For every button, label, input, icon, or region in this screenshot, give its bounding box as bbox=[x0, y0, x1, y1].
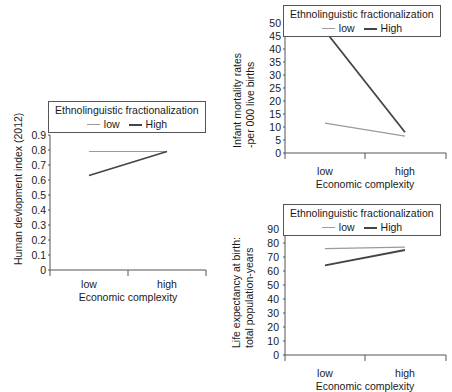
legend-label-high: High bbox=[381, 221, 403, 234]
y-tick-label: 0 bbox=[22, 264, 46, 276]
legend-title: Ethnolinguistic fractionalization bbox=[290, 8, 434, 21]
y-tick-label: 20 bbox=[255, 95, 281, 107]
legend-entry-high: High bbox=[364, 221, 403, 234]
legend-swatch-high-icon bbox=[129, 124, 142, 126]
y-tick-label: 0.7 bbox=[22, 159, 46, 171]
y-tick-label: 45 bbox=[255, 30, 281, 42]
y-tick-label: 0 bbox=[255, 147, 281, 159]
plot-area-life bbox=[283, 223, 448, 371]
legend-label-low: low bbox=[104, 118, 120, 131]
legend-entry-high: High bbox=[364, 22, 403, 35]
y-tick-label: 0.4 bbox=[22, 204, 46, 216]
y-tick-label: 10 bbox=[255, 121, 281, 133]
y-tick-label: 0.1 bbox=[22, 249, 46, 261]
y-tick-label: 70 bbox=[253, 251, 279, 263]
y-tick-label: 60 bbox=[253, 265, 279, 277]
legend-life: Ethnolinguistic fractionalization low Hi… bbox=[283, 204, 441, 236]
legend-label-low: low bbox=[339, 221, 355, 234]
plot-svg-imr bbox=[283, 17, 448, 165]
y-tick-label: 20 bbox=[253, 321, 279, 333]
x-category-label-high: high bbox=[380, 165, 430, 177]
legend-entry-low: low bbox=[322, 221, 355, 234]
x-category-label-low: low bbox=[300, 367, 350, 379]
y-tick-label: 0.5 bbox=[22, 189, 46, 201]
series-line-low bbox=[325, 123, 405, 136]
y-tick-label: 0 bbox=[253, 349, 279, 361]
legend-swatch-high-icon bbox=[364, 28, 377, 30]
y-tick-label: 40 bbox=[255, 43, 281, 55]
y-tick-label: 35 bbox=[255, 56, 281, 68]
plot-svg-hdi bbox=[48, 129, 208, 277]
y-tick-label: 5 bbox=[255, 134, 281, 146]
y-tick-label: 0.9 bbox=[22, 129, 46, 141]
series-line-high bbox=[89, 152, 167, 176]
legend-swatch-low-icon bbox=[322, 227, 335, 228]
y-tick-label: 80 bbox=[253, 237, 279, 249]
x-category-label-high: high bbox=[380, 367, 430, 379]
legend-swatch-high-icon bbox=[364, 227, 377, 229]
y-axis-title-imr-line1: Infant mortality rates bbox=[231, 53, 244, 148]
x-category-label-high: high bbox=[142, 278, 192, 290]
x-category-label-low: low bbox=[64, 278, 114, 290]
y-tick-label: 50 bbox=[253, 279, 279, 291]
plot-area-imr bbox=[283, 17, 448, 165]
y-tick-label: 90 bbox=[253, 223, 279, 235]
y-tick-label: 0.3 bbox=[22, 219, 46, 231]
y-tick-label: 50 bbox=[255, 17, 281, 29]
y-tick-label: 25 bbox=[255, 82, 281, 94]
y-axis-title-life-line1: Life expectancy at birth: bbox=[230, 237, 243, 348]
series-line-low bbox=[325, 247, 405, 248]
series-line-high bbox=[325, 31, 405, 132]
y-tick-label: 0.6 bbox=[22, 174, 46, 186]
y-tick-label: 10 bbox=[253, 335, 279, 347]
legend-entry-low: low bbox=[322, 22, 355, 35]
x-axis-title-life: Economic complexity bbox=[275, 380, 452, 392]
x-axis-title-hdi: Economic complexity bbox=[38, 291, 218, 303]
legend-imr: Ethnolinguistic fractionalization low Hi… bbox=[283, 5, 441, 37]
y-tick-label: 0.2 bbox=[22, 234, 46, 246]
y-tick-label: 30 bbox=[253, 307, 279, 319]
plot-area-hdi bbox=[48, 129, 208, 277]
legend-title: Ethnolinguistic fractionalization bbox=[55, 104, 199, 117]
y-tick-label: 0.8 bbox=[22, 144, 46, 156]
plot-svg-life bbox=[283, 223, 448, 371]
series-line-high bbox=[325, 250, 405, 265]
panel-life-expectancy: Life expectancy at birth: total populati… bbox=[215, 196, 452, 391]
legend-title: Ethnolinguistic fractionalization bbox=[290, 207, 434, 220]
legend-swatch-low-icon bbox=[87, 124, 100, 125]
legend-swatch-low-icon bbox=[322, 28, 335, 29]
legend-entry-low: low bbox=[87, 118, 120, 131]
legend-label-high: High bbox=[381, 22, 403, 35]
panel-infant-mortality-rates: Infant mortality rates -per 000 live bir… bbox=[215, 0, 452, 195]
legend-hdi: Ethnolinguistic fractionalization low Hi… bbox=[48, 101, 206, 133]
panel-human-development-index: Human devlopment index (2012) Ethnolingu… bbox=[0, 95, 215, 290]
legend-label-high: High bbox=[146, 118, 168, 131]
x-category-label-low: low bbox=[300, 165, 350, 177]
x-axis-title-imr: Economic complexity bbox=[275, 178, 452, 190]
y-tick-label: 40 bbox=[253, 293, 279, 305]
y-tick-label: 30 bbox=[255, 69, 281, 81]
legend-entry-high: High bbox=[129, 118, 168, 131]
legend-label-low: low bbox=[339, 22, 355, 35]
y-tick-label: 15 bbox=[255, 108, 281, 120]
